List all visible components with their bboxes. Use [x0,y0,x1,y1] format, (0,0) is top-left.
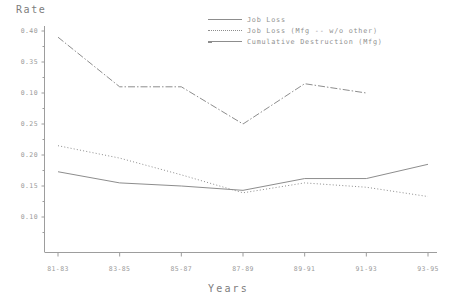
line-solid-icon [208,16,242,23]
line-dashdot-icon [208,38,242,45]
chart-legend: Job Loss Job Loss (Mfg -- w/o other) Cum… [208,14,453,47]
x-axis-tick-label: 85-87 [158,265,204,273]
x-axis-tick-label: 91-93 [343,265,389,273]
y-axis-tick-label: 0.40 [8,27,38,35]
x-axis-tick-label: 83-85 [97,265,143,273]
x-axis-tick-label: 87-89 [220,265,266,273]
axes [42,26,438,257]
line-dotted-icon [208,27,242,34]
y-axis-tick-label: 0.15 [8,182,38,190]
line-chart: Rate 0.400.350.100.250.200.150.10 81-838… [0,0,457,303]
legend-item-label: Job Loss [247,16,286,24]
y-axis-tick-label: 0.10 [8,213,38,221]
x-axis-tick-label: 81-83 [35,265,81,273]
legend-item-label: Cumulative Destruction (Mfg) [247,38,383,46]
legend-item: Job Loss [208,14,453,25]
series-line [58,164,428,190]
data-series-group [58,37,428,196]
legend-item: Cumulative Destruction (Mfg) [208,36,453,47]
series-line [58,146,428,197]
x-axis-ticks [58,253,428,257]
series-line [58,37,366,124]
legend-item-label: Job Loss (Mfg -- w/o other) [247,27,378,35]
y-axis-tick-label: 0.35 [8,58,38,66]
y-axis-tick-label: 0.20 [8,151,38,159]
x-axis-tick-label: 89-91 [282,265,328,273]
x-axis-tick-label: 93-95 [405,265,451,273]
y-axis-tick-label: 0.25 [8,120,38,128]
legend-item: Job Loss (Mfg -- w/o other) [208,25,453,36]
x-axis-title: Years [0,283,457,294]
y-axis-tick-label: 0.10 [8,89,38,97]
